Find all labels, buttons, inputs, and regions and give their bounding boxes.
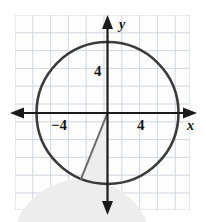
y-axis-name-label: y xyxy=(119,18,125,32)
coordinate-plane-graphic xyxy=(0,0,206,222)
x-axis-tick-label-negative-4: −4 xyxy=(51,118,67,133)
circle-sector-figure: 4 −4 4 y x xyxy=(0,0,206,222)
y-axis-tick-label-4: 4 xyxy=(94,64,102,79)
x-axis-name-label: x xyxy=(187,119,194,133)
x-axis-tick-label-4: 4 xyxy=(137,118,145,133)
